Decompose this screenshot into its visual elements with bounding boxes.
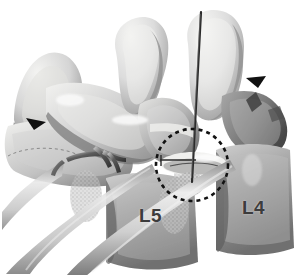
vertebra-label-l4: L4 [242,198,265,217]
vertebra-label-l5: L5 [139,206,162,225]
medical-illustration-figure: L5 L4 [0,0,296,275]
anatomy-canvas [0,0,296,275]
